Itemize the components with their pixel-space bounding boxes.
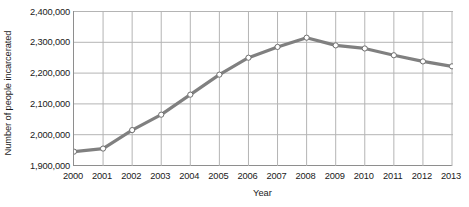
data-point-marker bbox=[420, 59, 425, 64]
data-point-marker bbox=[391, 53, 396, 58]
y-axis-tick-label: 1,900,000 bbox=[18, 161, 70, 171]
data-point-marker bbox=[100, 146, 105, 151]
data-point-marker bbox=[246, 55, 251, 60]
data-point-marker bbox=[449, 64, 453, 69]
data-point-marker bbox=[130, 127, 135, 132]
vertical-gridlines bbox=[103, 11, 452, 166]
y-axis-title: Number of people incarcerated bbox=[1, 8, 15, 178]
data-point-marker bbox=[74, 149, 77, 154]
plot-area bbox=[73, 11, 452, 166]
data-point-marker bbox=[333, 43, 338, 48]
y-axis-tick-label: 2,200,000 bbox=[18, 68, 70, 78]
data-point-marker bbox=[275, 44, 280, 49]
line-chart-figure: Number of people incarcerated 2,400,0002… bbox=[0, 0, 469, 207]
x-axis-tick-labels: 2000200120022003200420052006200720082009… bbox=[0, 170, 469, 184]
data-point-marker bbox=[217, 72, 222, 77]
y-axis-tick-label: 2,400,000 bbox=[18, 7, 70, 17]
data-point-marker bbox=[304, 35, 309, 40]
horizontal-gridlines bbox=[74, 12, 453, 135]
data-point-marker bbox=[188, 92, 193, 97]
x-axis-tick-label: 2013 bbox=[431, 170, 469, 182]
plot-svg bbox=[74, 11, 453, 166]
y-axis-tick-label: 2,100,000 bbox=[18, 99, 70, 109]
y-axis-tick-label: 2,300,000 bbox=[18, 37, 70, 47]
data-point-marker bbox=[362, 46, 367, 51]
x-axis-title: Year bbox=[73, 187, 452, 199]
y-axis-tick-label: 2,000,000 bbox=[18, 130, 70, 140]
data-point-marker bbox=[159, 112, 164, 117]
